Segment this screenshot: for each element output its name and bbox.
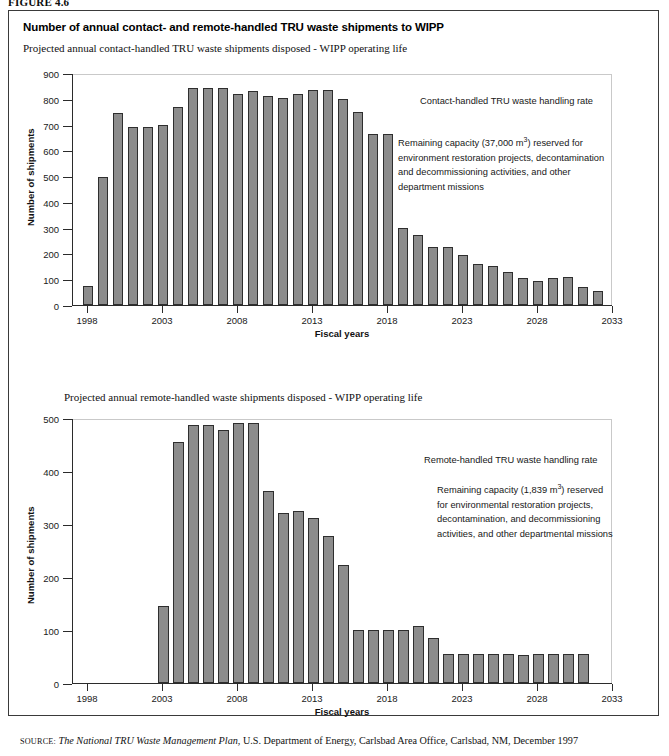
y-axis-tick: [63, 229, 72, 230]
x-axis-tick: [462, 684, 463, 691]
source-title: The National TRU Waste Management Plan: [59, 735, 238, 746]
x-axis-tick-label: 1998: [76, 315, 97, 326]
x-axis-tick: [237, 684, 238, 691]
bar: [458, 654, 469, 683]
bar: [308, 518, 319, 683]
bar: [593, 291, 603, 305]
bar: [368, 134, 378, 305]
y-axis-tick-label: 500: [43, 172, 59, 183]
bar: [338, 565, 349, 683]
bar: [383, 134, 393, 305]
bar: [323, 536, 334, 683]
bar: [128, 127, 138, 305]
y-axis-tick-label: 100: [43, 626, 59, 637]
bar: [323, 90, 333, 305]
x-axis-tick-label: 1998: [76, 693, 97, 704]
y-axis-tick-label: 0: [54, 679, 59, 690]
x-axis-tick-label: 2023: [451, 315, 472, 326]
annotation-line: department missions: [398, 180, 604, 195]
x-axis-tick-label: 2003: [151, 693, 172, 704]
y-axis-tick: [63, 74, 72, 75]
y-axis-tick: [63, 203, 72, 204]
bar: [143, 127, 153, 305]
chart-2-x-axis-title: Fiscal years: [315, 706, 369, 717]
bar: [218, 430, 229, 683]
bar: [413, 235, 423, 305]
bar: [233, 94, 243, 305]
figure-number-label: FIGURE 4.6: [8, 0, 69, 8]
chart-1-annotation-heading: Contact-handled TRU waste handling rate: [420, 96, 593, 106]
x-axis-tick-label: 2033: [601, 315, 622, 326]
x-axis-tick: [312, 306, 313, 313]
chart-2-annotation-heading: Remote-handled TRU waste handling rate: [424, 455, 597, 465]
bar: [278, 98, 288, 306]
bar: [458, 255, 468, 305]
bar: [83, 286, 93, 305]
y-axis-tick-label: 800: [43, 94, 59, 105]
chart-2-y-axis-title: Number of shipments: [25, 506, 36, 604]
bar: [338, 99, 348, 305]
bar: [248, 423, 259, 683]
bar: [113, 113, 123, 305]
y-axis-tick-label: 400: [43, 197, 59, 208]
bar: [278, 513, 289, 683]
source-rest: , U.S. Department of Energy, Carlsbad Ar…: [238, 735, 578, 746]
annotation-line: and decommissioning activities, and othe…: [398, 165, 604, 180]
bar: [263, 491, 274, 683]
y-axis-tick: [63, 525, 72, 526]
x-axis-tick: [87, 306, 88, 313]
x-axis-tick: [612, 684, 613, 691]
y-axis-tick: [63, 177, 72, 178]
bar: [218, 88, 228, 305]
page-title: Number of annual contact- and remote-han…: [23, 21, 444, 33]
y-axis-tick: [63, 151, 72, 152]
bar: [203, 88, 213, 305]
bar: [518, 278, 528, 305]
bar: [308, 90, 318, 305]
bar: [203, 425, 214, 683]
x-axis-tick-label: 2018: [376, 315, 397, 326]
y-axis-tick: [63, 684, 72, 685]
bar: [428, 638, 439, 683]
y-axis-tick-label: 100: [43, 275, 59, 286]
x-axis-tick-label: 2003: [151, 315, 172, 326]
bar: [158, 125, 168, 305]
bar: [248, 91, 258, 305]
y-axis-tick-label: 500: [43, 414, 59, 425]
y-axis-tick-label: 300: [43, 223, 59, 234]
x-axis-tick-label: 2013: [301, 315, 322, 326]
chart-1-subtitle: Projected annual contact-handled TRU was…: [23, 42, 407, 54]
bar: [503, 272, 513, 306]
y-axis-tick: [63, 306, 72, 307]
y-axis-tick-label: 300: [43, 520, 59, 531]
x-axis-tick: [162, 684, 163, 691]
bar: [503, 654, 514, 683]
x-axis-tick: [537, 684, 538, 691]
annotation-line: activities, and other departmental missi…: [437, 527, 613, 542]
x-axis-tick: [162, 306, 163, 313]
bar: [173, 107, 183, 305]
y-axis-tick: [63, 419, 72, 420]
bar: [548, 654, 559, 683]
bar: [398, 630, 409, 683]
bar: [488, 266, 498, 305]
annotation-line: Remaining capacity (37,000 m3) reserved …: [398, 133, 604, 151]
y-axis-tick-label: 600: [43, 146, 59, 157]
x-axis-tick: [87, 684, 88, 691]
x-axis-tick: [312, 684, 313, 691]
y-axis-tick: [63, 100, 72, 101]
x-axis-tick-label: 2013: [301, 693, 322, 704]
bar: [158, 606, 169, 683]
bar: [563, 654, 574, 683]
y-axis-tick-label: 0: [54, 301, 59, 312]
annotation-line: environment restoration projects, decont…: [398, 151, 604, 166]
chart-1-y-axis-title: Number of shipments: [25, 128, 36, 226]
x-axis-tick: [387, 306, 388, 313]
source-prefix: SOURCE:: [20, 737, 56, 746]
bar: [353, 112, 363, 305]
y-axis-tick: [63, 126, 72, 127]
bar: [293, 511, 304, 683]
x-axis-tick-label: 2008: [226, 693, 247, 704]
y-axis-tick-label: 200: [43, 573, 59, 584]
y-axis-tick: [63, 254, 72, 255]
